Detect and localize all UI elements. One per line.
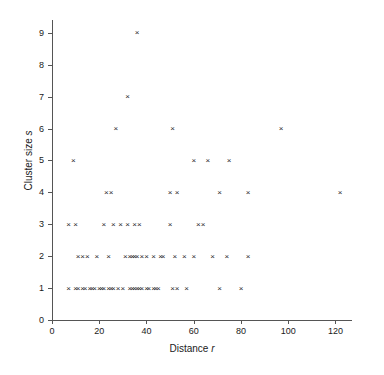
y-tick-label: 0	[30, 315, 44, 325]
y-tick-label: 2	[30, 251, 44, 261]
x-axis-title-symbol: r	[211, 343, 214, 354]
x-tick-label: 80	[236, 326, 246, 336]
x-tick-mark	[335, 320, 336, 324]
x-axis-title: Distance r	[0, 343, 384, 354]
x-tick-label: 100	[281, 326, 296, 336]
x-tick-mark	[288, 320, 289, 324]
x-tick-mark	[99, 320, 100, 324]
y-tick-mark	[48, 33, 52, 34]
x-axis-title-text: Distance	[169, 343, 208, 354]
x-tick-label: 20	[94, 326, 104, 336]
y-axis-title-text: Cluster size	[23, 138, 34, 190]
x-tick-mark	[52, 320, 53, 324]
y-axis-title: Cluster size s	[23, 81, 34, 241]
x-tick-mark	[194, 320, 195, 324]
scatter-chart-figure: 020406080100120 0123456789 Distance r Cl…	[0, 0, 384, 375]
x-tick-label: 60	[189, 326, 199, 336]
x-axis-line	[52, 320, 352, 321]
y-tick-mark	[48, 288, 52, 289]
y-tick-mark	[48, 160, 52, 161]
plot-area	[52, 20, 352, 320]
y-tick-label: 1	[30, 283, 44, 293]
y-tick-label: 9	[30, 28, 44, 38]
x-tick-mark	[146, 320, 147, 324]
y-tick-mark	[48, 65, 52, 66]
y-tick-label: 8	[30, 60, 44, 70]
x-tick-mark	[241, 320, 242, 324]
y-tick-mark	[48, 320, 52, 321]
x-tick-label: 120	[328, 326, 343, 336]
x-tick-label: 0	[49, 326, 54, 336]
y-axis-title-symbol: s	[23, 130, 34, 135]
y-tick-mark	[48, 224, 52, 225]
x-tick-label: 40	[141, 326, 151, 336]
y-tick-mark	[48, 256, 52, 257]
y-axis-line	[52, 20, 53, 320]
y-tick-mark	[48, 192, 52, 193]
y-tick-mark	[48, 97, 52, 98]
y-tick-mark	[48, 129, 52, 130]
